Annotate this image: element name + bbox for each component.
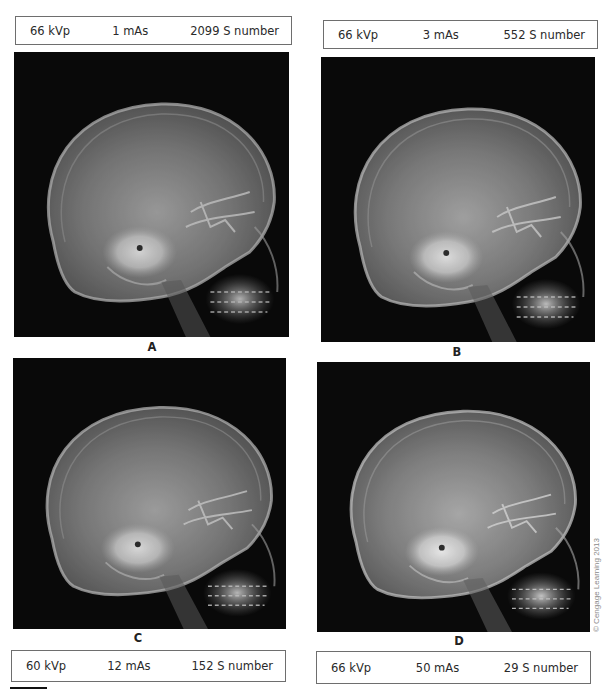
exposure-box-a: 66 kVp 1 mAs 2099 S number: [15, 16, 292, 45]
mas-value: 50 mAs: [416, 661, 459, 675]
panel-label-d: D: [449, 634, 469, 648]
kvp-value: 66 kVp: [331, 661, 371, 675]
radiograph-d: [317, 362, 590, 632]
mas-value: 12 mAs: [107, 659, 150, 673]
s-number-value: 2099 S number: [190, 24, 279, 38]
s-number-value: 29 S number: [504, 661, 578, 675]
radiograph-c: [13, 358, 286, 629]
divider-rule: [10, 687, 47, 689]
mas-value: 3 mAs: [423, 28, 459, 42]
exposure-box-b: 66 kVp 3 mAs 552 S number: [323, 20, 598, 49]
mas-value: 1 mAs: [112, 24, 148, 38]
s-number-value: 152 S number: [192, 659, 273, 673]
panel-label-b: B: [447, 345, 467, 359]
skull-xray-image: [14, 52, 289, 337]
s-number-value: 552 S number: [504, 28, 585, 42]
kvp-value: 60 kVp: [26, 659, 66, 673]
exposure-box-c: 60 kVp 12 mAs 152 S number: [11, 650, 286, 682]
exposure-box-d: 66 kVp 50 mAs 29 S number: [316, 651, 591, 684]
skull-xray-image: [13, 358, 286, 629]
panel-label-a: A: [142, 340, 162, 354]
panel-label-c: C: [128, 631, 148, 645]
copyright-notice: © Cengage Learning 2013: [592, 538, 601, 632]
kvp-value: 66 kVp: [338, 28, 378, 42]
skull-xray-image: [317, 362, 590, 632]
kvp-value: 66 kVp: [30, 24, 70, 38]
radiograph-a: [14, 52, 289, 337]
radiograph-b: [321, 57, 595, 342]
skull-xray-image: [321, 57, 595, 342]
